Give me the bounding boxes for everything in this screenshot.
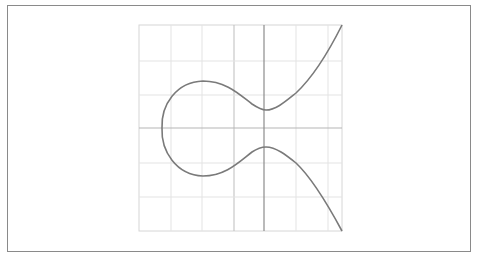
elliptic-curve-chart [0,0,479,258]
